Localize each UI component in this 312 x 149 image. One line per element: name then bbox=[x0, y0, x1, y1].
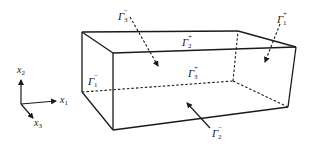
label-gamma-1-plus: Γ+1 bbox=[277, 14, 283, 25]
x1-axis-label: x1 bbox=[60, 95, 68, 105]
label-gamma-2-plus: Γ+2 bbox=[182, 37, 188, 48]
label-gamma-3-minus: Γ−3 bbox=[118, 11, 124, 22]
x1-axis-arrow bbox=[21, 101, 56, 104]
x3-axis-arrow bbox=[21, 104, 33, 118]
gamma-2-minus-arrow bbox=[187, 103, 210, 128]
coordinate-axes bbox=[21, 80, 56, 118]
x3-axis-label: x3 bbox=[34, 118, 42, 128]
label-gamma-3-plus: Γ+3 bbox=[188, 68, 194, 79]
gamma-3-minus-arrow bbox=[130, 17, 158, 66]
x2-axis-label: x2 bbox=[17, 65, 25, 75]
gamma-1-plus-arrow bbox=[265, 24, 280, 62]
box-diagram bbox=[0, 0, 312, 149]
label-gamma-1-minus: Γ−1 bbox=[88, 76, 94, 87]
label-gamma-2-minus: Γ−2 bbox=[212, 128, 218, 139]
